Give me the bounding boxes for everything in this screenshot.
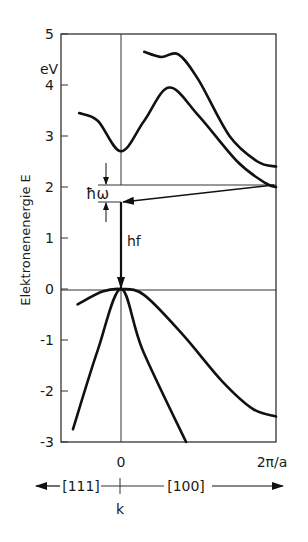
y-tick-label: 1 [45,230,54,246]
y-tick-labels: 543210-1-2-3 [40,26,54,450]
y-tick-label: -2 [40,383,54,399]
y-tick-label: 3 [45,128,54,144]
y-tick-label: 4 [45,77,54,93]
x-tick-label-zero: 0 [117,454,126,470]
conduction-band-lower [79,88,276,187]
y-axis-title: Elektronenenergie E [18,174,33,306]
band-structure-diagram: 543210-1-2-3 eV Elektronenenergie E ħω h… [0,0,308,542]
plot-frame [61,34,276,442]
x-axis-title: k [116,501,125,517]
valence-band-heavy [78,289,276,417]
valence-band-light [73,289,186,442]
y-tick-label: 5 [45,26,54,42]
y-unit-label: eV [40,61,59,77]
y-tick-label: 0 [45,281,54,297]
x-tick-label-end: 2π/a [257,454,288,470]
y-tick-marks [61,34,68,442]
bands [73,52,276,442]
conduction-band-upper [144,52,276,167]
direction-111-label: [111] [62,478,100,494]
y-tick-label: -1 [40,332,54,348]
phonon-transition-arrow [123,185,274,202]
phonon-energy-label: ħω [86,185,109,203]
photon-energy-label: hf [127,233,142,249]
y-tick-label: 2 [45,179,54,195]
direction-100-label: [100] [167,478,205,494]
y-tick-label: -3 [40,434,54,450]
